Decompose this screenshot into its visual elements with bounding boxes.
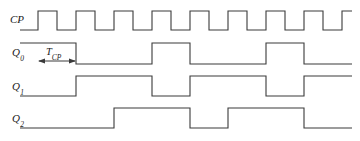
waveform-canvas (0, 0, 360, 141)
tcp-arrowhead-right (69, 58, 76, 63)
signal-label-cp: CP (10, 14, 24, 28)
period-annotation-main: T (46, 46, 52, 57)
signal-label-q1-sub: 1 (20, 88, 24, 97)
signal-label-q2-sub: 2 (20, 120, 24, 129)
timing-diagram-figure: CP Q0 Q1 Q2 TCP (0, 0, 360, 141)
signal-label-q1: Q1 (12, 81, 24, 95)
tcp-arrowhead-left (38, 58, 45, 63)
period-annotation-tcp: TCP (46, 47, 61, 60)
signal-label-q0: Q0 (12, 47, 24, 61)
signal-label-q1-main: Q (12, 80, 20, 92)
waveform-traces (20, 11, 352, 128)
waveform-q2 (20, 108, 352, 128)
signal-label-q0-main: Q (12, 46, 20, 58)
signal-label-q2: Q2 (12, 113, 24, 127)
signal-label-q2-main: Q (12, 112, 20, 124)
signal-label-cp-main: CP (10, 13, 24, 25)
waveform-cp (20, 11, 352, 30)
period-annotation-sub: CP (52, 53, 62, 62)
waveform-q1 (20, 76, 352, 96)
signal-label-q0-sub: 0 (20, 54, 24, 63)
